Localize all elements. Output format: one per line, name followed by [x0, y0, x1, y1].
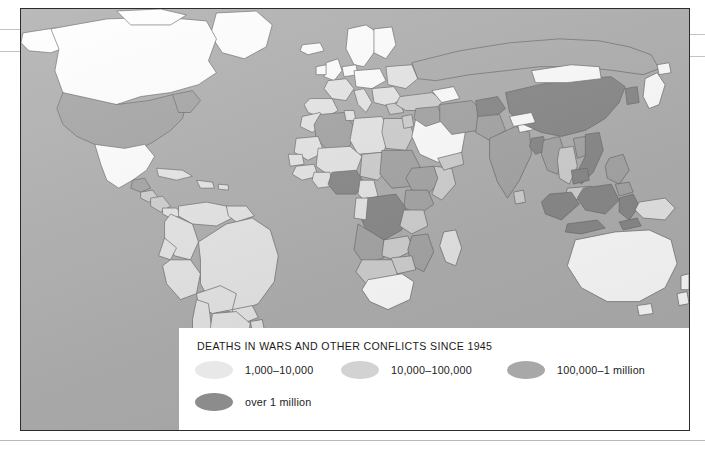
legend-item-1000-10000[interactable]: 1,000–10,000: [195, 361, 341, 379]
legend-swatch-100000-1million: [507, 361, 545, 379]
region-madagascar: [440, 230, 462, 266]
region-israel-palestine: [402, 114, 414, 128]
region-sulawesi: [619, 194, 639, 220]
region-sumatra: [541, 192, 579, 220]
region-sri-lanka: [514, 190, 526, 204]
scan-artifact-line: [0, 440, 705, 441]
region-italy: [354, 89, 372, 113]
region-new-zealand: [681, 274, 689, 290]
world-map: .ld{stroke:#6e6e6e;stroke-width:.7;strok…: [20, 8, 690, 431]
legend-swatch-over-1million: [195, 393, 233, 411]
region-iceland: [300, 43, 324, 55]
legend-item-10000-100000[interactable]: 10,000–100,000: [341, 361, 507, 379]
legend-label-10000-100000: 10,000–100,000: [391, 364, 472, 376]
legend-label-100000-1million: 100,000–1 million: [557, 364, 645, 376]
region-senegal: [288, 154, 304, 166]
region-mongolia: [531, 65, 601, 83]
region-cambodia: [571, 168, 589, 184]
region-greenland: [210, 11, 272, 59]
region-new-zealand-south: [677, 292, 689, 306]
region-finland: [374, 27, 396, 59]
region-puerto-rico: [218, 184, 228, 190]
region-hispaniola: [196, 180, 214, 188]
region-java: [565, 220, 605, 234]
legend-title: DEATHS IN WARS AND OTHER CONFLICTS SINCE…: [197, 340, 689, 352]
region-united-kingdom: [324, 59, 342, 81]
region-india: [490, 126, 532, 198]
region-tasmania: [637, 304, 653, 316]
region-borneo: [577, 184, 619, 214]
legend-item-over-1million[interactable]: over 1 million: [195, 393, 311, 411]
region-norway-sweden: [346, 25, 378, 67]
legend-label-over-1million: over 1 million: [245, 396, 311, 408]
region-eastern-europe: [386, 65, 418, 89]
region-korea: [625, 87, 639, 105]
region-papua-new-guinea: [635, 198, 675, 220]
region-japan: [643, 73, 665, 109]
region-philippines: [605, 154, 629, 184]
legend-row-2: over 1 million: [195, 393, 689, 411]
legend-label-1000-10000: 1,000–10,000: [245, 364, 313, 376]
region-philippines-south: [615, 182, 633, 196]
region-cuba: [157, 168, 193, 180]
region-germany-poland: [354, 69, 386, 89]
legend-item-100000-1million[interactable]: 100,000–1 million: [507, 361, 645, 379]
region-peru: [163, 260, 201, 300]
region-ireland: [316, 65, 326, 75]
region-timor: [619, 218, 641, 230]
region-france: [324, 79, 354, 101]
map-legend: DEATHS IN WARS AND OTHER CONFLICTS SINCE…: [179, 328, 689, 430]
legend-row-1: 1,000–10,000 10,000–100,000 100,000–1 mi…: [195, 361, 689, 379]
region-guatemala: [131, 178, 151, 192]
region-japan-north: [657, 63, 671, 75]
region-australia: [567, 230, 677, 302]
region-gabon-congo: [354, 198, 368, 220]
legend-swatch-1000-10000: [195, 361, 233, 379]
region-tanzania: [400, 210, 428, 234]
region-south-africa: [362, 274, 414, 310]
scanned-page: .ld{stroke:#6e6e6e;stroke-width:.7;strok…: [0, 0, 705, 450]
legend-swatch-10000-100000: [341, 361, 379, 379]
